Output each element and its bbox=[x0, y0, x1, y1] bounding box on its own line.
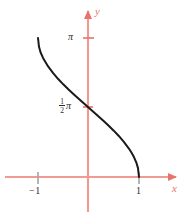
fraction-denominator: 2 bbox=[59, 107, 65, 114]
pi-symbol: π bbox=[66, 101, 71, 111]
fraction-one-half: 1 2 bbox=[59, 98, 65, 114]
y-axis-label: y bbox=[95, 6, 100, 17]
x-axis-label: x bbox=[172, 183, 177, 194]
x-tick-label-one: 1 bbox=[136, 186, 141, 196]
y-tick-label-half-pi: 1 2 π bbox=[59, 98, 71, 114]
figure-arccos-plot: y x π 1 2 π −1 1 bbox=[0, 0, 189, 217]
y-tick-label-pi: π bbox=[68, 32, 73, 42]
fraction-numerator: 1 bbox=[59, 98, 65, 105]
x-tick-label-minus-one: −1 bbox=[29, 186, 41, 196]
